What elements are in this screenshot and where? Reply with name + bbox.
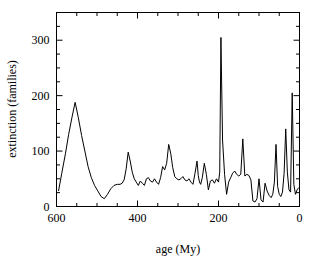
y-axis-tick-labels: 0100200300 xyxy=(32,33,50,213)
x-axis-tick-labels: 6004002000 xyxy=(48,211,303,225)
y-tick-label: 200 xyxy=(32,89,50,103)
y-axis-title: extinction (families) xyxy=(5,60,19,158)
chart-canvas: 6004002000 0100200300 age (My) extinctio… xyxy=(0,0,319,265)
x-axis-title: age (My) xyxy=(156,242,200,256)
x-tick-label: 400 xyxy=(129,211,147,225)
y-tick-label: 300 xyxy=(32,33,50,47)
extinction-series-line xyxy=(59,37,299,202)
extinction-chart-figure: 6004002000 0100200300 age (My) extinctio… xyxy=(0,0,319,265)
x-tick-label: 600 xyxy=(48,211,66,225)
y-tick-label: 100 xyxy=(32,144,50,158)
x-tick-label: 200 xyxy=(210,211,228,225)
x-axis-major-ticks xyxy=(57,13,300,207)
plot-frame xyxy=(57,13,300,207)
x-tick-label: 0 xyxy=(297,211,303,225)
y-axis-minor-ticks xyxy=(57,13,300,193)
x-axis-minor-ticks xyxy=(77,13,280,207)
y-tick-label: 0 xyxy=(44,200,50,214)
